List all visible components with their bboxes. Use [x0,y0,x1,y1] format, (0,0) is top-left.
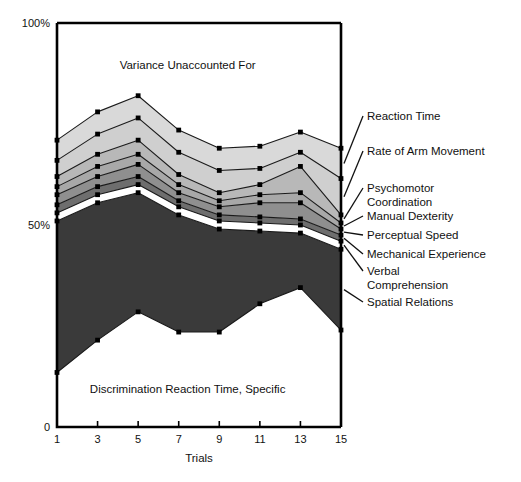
series-label: Psychomotor [367,182,434,194]
data-point-marker [176,198,181,203]
x-tick-label: 1 [54,433,60,445]
data-point-marker [217,219,222,224]
data-point-marker [176,172,181,177]
series-label: Spatial Relations [367,296,454,308]
leader-line [344,188,363,219]
plot-annotation-1: Discrimination Reaction Time, Specific [90,383,286,395]
data-point-marker [176,128,181,133]
data-point-marker [257,215,262,220]
data-point-marker [298,130,303,135]
data-point-marker [217,198,222,203]
series-label: Rate of Arm Movement [367,145,485,157]
data-point-marker [217,190,222,195]
data-point-marker [95,132,100,137]
leader-line [344,216,363,226]
data-point-marker [298,223,303,228]
data-point-marker [176,190,181,195]
data-point-marker [136,93,141,98]
chart-canvas: 13579111315Trials050%100%Variance Unacco… [0,0,521,482]
x-tick-label: 3 [95,433,101,445]
data-point-marker [95,338,100,343]
x-tick-label: 11 [254,433,265,445]
y-tick-label: 50% [28,219,50,231]
data-point-marker [217,204,222,209]
data-point-marker [298,150,303,155]
data-point-marker [257,301,262,306]
data-point-marker [257,229,262,234]
data-point-marker [136,190,141,195]
data-point-marker [217,213,222,218]
data-point-marker [217,330,222,335]
data-point-marker [136,162,141,167]
data-point-marker [217,227,222,232]
data-point-marker [136,152,141,157]
stacked-bands [57,96,341,427]
x-tick-label: 5 [135,433,141,445]
plot-annotation-0: Variance Unaccounted For [120,59,256,71]
data-point-marker [298,200,303,205]
series-label: Coordination [367,196,432,208]
x-tick-label: 7 [176,433,182,445]
series-label: Mechanical Experience [367,248,486,260]
y-tick-label: 100% [22,17,50,29]
leader-line [344,245,363,271]
data-point-marker [257,182,262,187]
data-point-marker [136,138,141,143]
data-point-marker [176,330,181,335]
data-point-marker [257,166,262,171]
data-point-marker [95,184,100,189]
data-point-marker [257,144,262,149]
data-point-marker [298,164,303,169]
data-point-marker [136,182,141,187]
data-point-marker [95,109,100,114]
data-point-marker [176,204,181,209]
data-point-marker [298,231,303,236]
y-tick-label: 0 [44,421,50,433]
leader-line [344,290,363,302]
data-point-marker [95,200,100,205]
figure-area-chart: 13579111315Trials050%100%Variance Unacco… [0,0,521,482]
data-point-marker [136,309,141,314]
data-point-marker [257,192,262,197]
series-label: Reaction Time [367,110,441,122]
figure-caption [0,475,521,482]
data-point-marker [95,164,100,169]
leader-line [344,238,363,254]
data-point-marker [95,174,100,179]
data-point-marker [95,152,100,157]
data-point-marker [298,285,303,290]
x-axis-title: Trials [185,452,213,464]
data-point-marker [136,116,141,121]
leader-line [344,232,363,235]
data-point-marker [217,146,222,151]
series-label: Perceptual Speed [367,229,458,241]
data-point-marker [257,200,262,205]
data-point-marker [217,168,222,173]
data-point-marker [298,190,303,195]
data-point-marker [298,217,303,222]
data-point-marker [257,221,262,226]
x-tick-label: 9 [216,433,222,445]
data-point-marker [176,150,181,155]
series-label: Comprehension [367,279,448,291]
data-point-marker [176,182,181,187]
data-point-marker [95,192,100,197]
data-point-marker [136,174,141,179]
series-label: Manual Dexterity [367,210,454,222]
data-point-marker [176,213,181,218]
x-tick-label: 15 [335,433,347,445]
series-label: Verbal [367,265,400,277]
x-tick-label: 13 [294,433,306,445]
